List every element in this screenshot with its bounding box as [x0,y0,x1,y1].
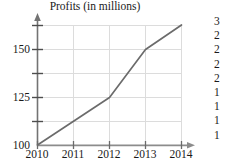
profits-line-chart: Profits (in millions) [0,0,230,162]
chart-title: Profits (in millions) [30,0,160,13]
side-digit: 3 [214,14,230,28]
x-tick-label-2012: 2012 [89,148,129,160]
x-tick-label-2011: 2011 [53,148,93,160]
side-digit: 1 [214,85,230,99]
side-digit: 1 [214,99,230,113]
y-tick-label-150: 150 [0,43,30,55]
x-tick-label-2014: 2014 [161,148,201,160]
y-axis [34,13,41,146]
x-tick-label-2010: 2010 [17,148,57,160]
x-tick-label-2013: 2013 [125,148,165,160]
side-digit: 1 [214,128,230,142]
side-digit: 2 [214,28,230,42]
chart-canvas [0,0,230,162]
vertical-gridlines [74,25,182,145]
y-tick-label-125: 125 [0,91,30,103]
side-digit: 2 [214,71,230,85]
side-digit: 2 [214,42,230,56]
y-axis-arrow [34,13,41,21]
cropped-side-axis-labels: 3 2 2 2 2 1 1 1 1 [214,14,230,154]
side-digit: 1 [214,113,230,127]
side-digit: 2 [214,57,230,71]
